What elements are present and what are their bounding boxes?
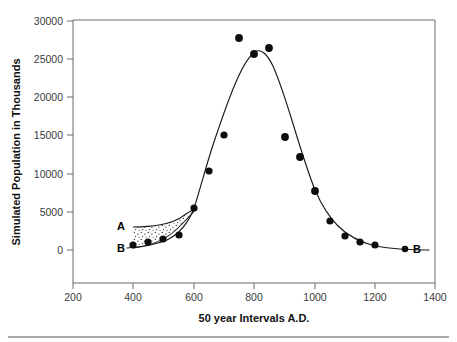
data-point	[250, 50, 258, 58]
data-point	[205, 167, 212, 174]
x-tick-label-800: 800	[245, 291, 263, 303]
chart-figure: 30000 25000 20000 15000 10000 5000 0 200…	[0, 0, 457, 342]
x-tick-label-400: 400	[124, 291, 142, 303]
data-point	[175, 231, 182, 238]
data-point	[356, 238, 363, 245]
x-tick-label-200: 200	[64, 291, 82, 303]
data-point	[371, 241, 378, 248]
y-tick-label-30000: 30000	[34, 15, 63, 27]
label-a: A	[117, 220, 125, 232]
y-tick-label-25000: 25000	[34, 53, 63, 65]
x-tick-label-600: 600	[185, 291, 203, 303]
data-point	[235, 34, 243, 42]
data-point	[190, 204, 197, 211]
y-axis-title: Simulated Population in Thousands	[10, 58, 22, 245]
data-point	[402, 246, 409, 253]
y-tick-label-20000: 20000	[34, 91, 63, 103]
data-point	[296, 153, 304, 161]
data-point	[159, 235, 166, 242]
y-tick-label-15000: 15000	[34, 129, 63, 141]
data-point	[341, 232, 348, 239]
data-point	[281, 133, 289, 141]
x-axis-title: 50 year Intervals A.D.	[199, 312, 310, 324]
data-point	[265, 44, 273, 52]
x-tick-label-1000: 1000	[303, 291, 327, 303]
label-b-left: B	[117, 242, 125, 254]
data-point	[326, 217, 333, 224]
y-tick-label-0: 0	[57, 244, 63, 256]
population-chart: 30000 25000 20000 15000 10000 5000 0 200…	[0, 0, 457, 342]
x-tick-label-1400: 1400	[423, 291, 447, 303]
data-point	[311, 187, 319, 195]
y-tick-label-5000: 5000	[40, 206, 64, 218]
data-point	[220, 131, 227, 138]
data-point	[144, 238, 151, 245]
y-tick-label-10000: 10000	[34, 168, 63, 180]
data-point	[129, 241, 136, 248]
x-tick-label-1200: 1200	[363, 291, 387, 303]
label-b-right: B	[413, 243, 421, 255]
